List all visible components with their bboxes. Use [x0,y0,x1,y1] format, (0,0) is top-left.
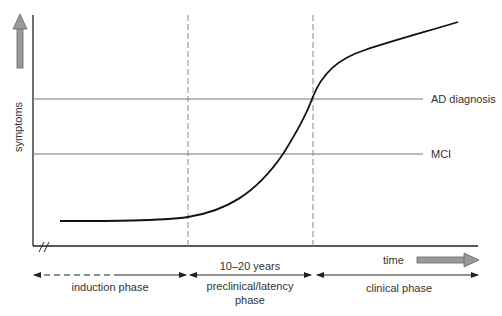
time-right-arrow-icon [417,253,479,267]
symptoms-up-arrow-icon [13,14,27,68]
y-axis-label: symptoms [12,101,24,152]
duration-label: 10–20 years [220,260,281,272]
preclinical-phase-label-line1: preclinical/latency [207,280,294,292]
ad-diagnosis-label: AD diagnosis [431,93,496,105]
clinical-phase-label: clinical phase [366,282,432,294]
x-axis-label: time [383,254,404,266]
symptom-curve [60,22,458,221]
diagram-canvas: symptoms AD diagnosis MCI time 10–20 yea… [0,0,502,316]
axis-break-icon [39,242,49,252]
mci-label: MCI [431,148,451,160]
preclinical-phase-label-line2: phase [235,294,265,306]
induction-phase-label: induction phase [71,281,148,293]
